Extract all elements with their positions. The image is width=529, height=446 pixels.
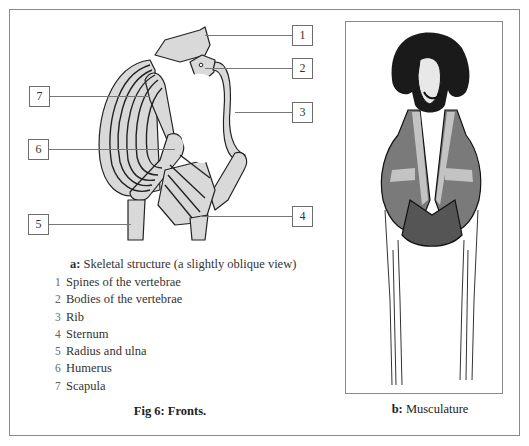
sternal-muscle — [402, 200, 462, 246]
panel-b-caption: b: Musculature — [370, 402, 490, 417]
musculature-illustration — [0, 0, 529, 446]
panel-b-caption-prefix: b: — [392, 402, 403, 416]
panel-b-caption-text: Musculature — [403, 402, 469, 416]
